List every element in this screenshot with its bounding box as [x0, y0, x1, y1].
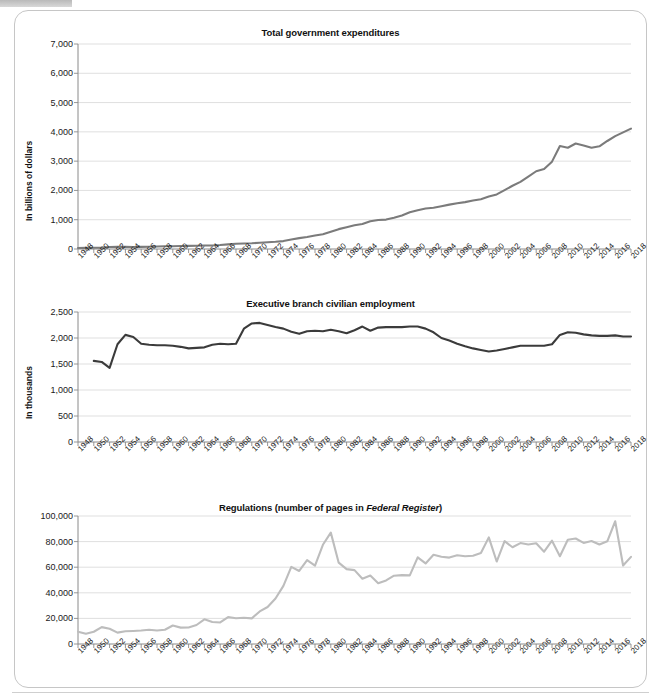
- top-gray-strip: [0, 0, 72, 7]
- chart-panel-total-government-expenditures: Total government expenditures In billion…: [14, 16, 647, 294]
- y-tick-label: 100,000: [40, 511, 73, 521]
- chart-title-2: Regulations (number of pages in Federal …: [14, 502, 647, 513]
- bottom-rule: [12, 692, 649, 693]
- chart-title-0: Total government expenditures: [14, 27, 647, 38]
- y-tick-label: 0: [68, 639, 73, 649]
- y-tick-label: 4,000: [50, 127, 73, 137]
- data-series-line: [94, 323, 631, 368]
- chart-svg: [78, 312, 631, 442]
- chart-svg: [78, 516, 631, 644]
- y-tick-label: 2,500: [50, 307, 73, 317]
- y-tick-label: 40,000: [45, 588, 73, 598]
- y-tick-label: 1,000: [50, 215, 73, 225]
- y-tick-label: 6,000: [50, 68, 73, 78]
- chart-panel-executive-branch-civilian-employment: Executive branch civilian employment In …: [14, 294, 647, 498]
- y-tick-label: 2,000: [50, 185, 73, 195]
- chart-ylabel-1: In thousands: [24, 366, 34, 419]
- data-series-line: [78, 521, 631, 634]
- data-series-line: [78, 129, 631, 248]
- x-tick-label: 2018: [629, 241, 648, 260]
- y-tick-label: 500: [58, 411, 73, 421]
- y-tick-label: 1,000: [50, 385, 73, 395]
- chart-title-2-italic: Federal Register: [366, 502, 439, 513]
- y-tick-label: 80,000: [45, 537, 73, 547]
- plot-area-0: 01,0002,0003,0004,0005,0006,0007,0001948…: [78, 44, 631, 249]
- x-tick-label: 2018: [629, 434, 648, 453]
- y-tick-label: 5,000: [50, 98, 73, 108]
- chart-svg: [78, 44, 631, 249]
- y-tick-label: 0: [68, 244, 73, 254]
- figure-charts-container: Total government expenditures In billion…: [14, 10, 647, 688]
- chart-panel-regulations: Regulations (number of pages in Federal …: [14, 498, 647, 688]
- y-tick-label: 2,000: [50, 333, 73, 343]
- y-tick-label: 60,000: [45, 562, 73, 572]
- chart-ylabel-0: In billions of dollars: [24, 141, 34, 221]
- plot-area-1: 05001,0001,5002,0002,5001948195019521954…: [78, 312, 631, 442]
- y-tick-label: 0: [68, 437, 73, 447]
- y-tick-label: 7,000: [50, 39, 73, 49]
- y-tick-label: 3,000: [50, 156, 73, 166]
- x-tick-label: 2018: [629, 636, 648, 655]
- chart-title-1: Executive branch civilian employment: [14, 298, 647, 309]
- plot-area-2: 020,00040,00060,00080,000100,00019481950…: [78, 516, 631, 644]
- y-tick-label: 20,000: [45, 613, 73, 623]
- y-tick-label: 1,500: [50, 359, 73, 369]
